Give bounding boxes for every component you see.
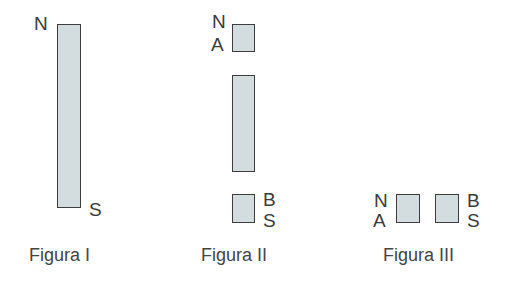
figure-3-a-label: A [373,211,386,230]
figure-2-middle-piece [232,75,255,172]
figure-3-left-piece [396,194,420,223]
figure-2-a-label: A [211,35,224,54]
figure-3-north-label: N [374,191,388,210]
figure-1-bar-magnet [57,24,81,208]
figure-3-right-piece [435,194,459,223]
figure-1-south-label: S [89,200,102,219]
figure-2-bottom-piece [232,194,255,223]
figure-3-caption: Figura III [383,246,454,264]
figure-2-top-piece [232,24,255,52]
figure-1-caption: Figura I [29,246,90,264]
figure-1-north-label: N [34,14,48,33]
figure-2-caption: Figura II [201,246,267,264]
figure-2-north-label: N [212,12,226,31]
figure-2-b-label: B [263,190,276,209]
figure-3-south-label: S [467,211,480,230]
figure-2-south-label: S [263,211,276,230]
figure-3-b-label: B [467,191,480,210]
